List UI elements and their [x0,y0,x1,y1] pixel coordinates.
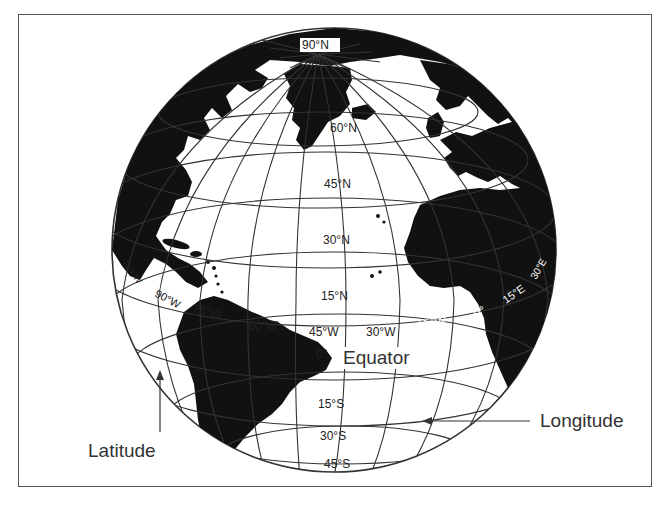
annotation-equator: Equator [343,347,410,368]
label-45s: 45°S [324,457,350,471]
annotation-longitude: Longitude [540,410,623,431]
label-30w: 30°W [366,325,396,339]
label-90n: 90°N [302,38,329,52]
label-30n: 30°N [323,233,350,247]
label-0-lat: 0° [316,347,328,361]
label-45w: 45°W [309,325,339,339]
latitude-annotation: Latitude [88,370,164,461]
label-15n: 15°N [321,289,348,303]
label-60w: 60°W [248,319,278,333]
globe-diagram: 90°N 60°N 45°N 30°N 15°N 0° 15°S 30°S 45… [0,0,664,508]
label-30s: 30°S [320,429,346,443]
label-60n: 60°N [330,121,357,135]
annotation-latitude: Latitude [88,440,156,461]
label-45n: 45°N [324,177,351,191]
label-15s: 15°S [318,397,344,411]
